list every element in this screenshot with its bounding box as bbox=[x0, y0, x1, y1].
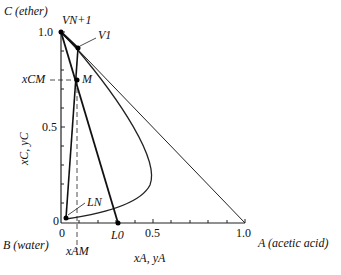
b-vertex-label: B (water) bbox=[3, 238, 49, 253]
x-tick-05: 0.5 bbox=[145, 226, 160, 241]
y-axis-label: xC, yC bbox=[17, 132, 32, 165]
x-axis-label: xA, yA bbox=[134, 251, 165, 266]
vn1-label: VN+1 bbox=[62, 13, 91, 28]
m-label: M bbox=[82, 72, 92, 87]
y-tick-05: 0.5 bbox=[42, 120, 57, 135]
y-tick-1: 1.0 bbox=[38, 25, 53, 40]
ln-label: LN bbox=[87, 195, 102, 210]
a-vertex-label: A (acetic acid) bbox=[258, 236, 328, 251]
l0-label: L0 bbox=[111, 228, 124, 243]
xcm-label: xCM bbox=[22, 72, 45, 87]
ternary-diagram bbox=[0, 0, 341, 275]
x-tick-0: 0 bbox=[59, 226, 65, 241]
xam-label: xAM bbox=[66, 244, 89, 259]
c-vertex-label: C (ether) bbox=[4, 4, 48, 19]
v1-label: V1 bbox=[98, 28, 111, 43]
x-tick-1: 1.0 bbox=[236, 226, 251, 241]
